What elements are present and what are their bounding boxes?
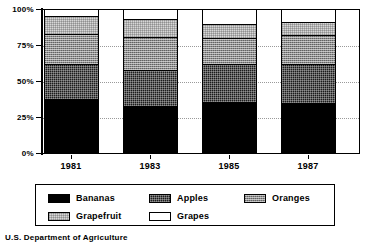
x-axis-label-1983: 1983 — [120, 161, 180, 171]
legend-label-apples: Apples — [177, 193, 208, 203]
y-axis-label-50: 50% — [0, 77, 34, 86]
x-axis-tick-1985 — [229, 155, 230, 159]
x-axis-tick-1987 — [308, 155, 309, 159]
bar-segment-1985-bananas[interactable] — [202, 102, 257, 154]
legend-swatch-oranges-icon — [244, 194, 266, 203]
legend-item-grapefruit: Grapefruit — [48, 211, 122, 221]
bar-segment-1981-apples[interactable] — [44, 64, 99, 99]
legend-item-bananas: Bananas — [48, 193, 115, 203]
bar-segment-1987-grapefruit[interactable] — [281, 22, 336, 35]
legend-item-apples: Apples — [149, 193, 208, 203]
legend-label-grapes: Grapes — [177, 211, 209, 221]
x-axis-label-1985: 1985 — [199, 161, 259, 171]
bar-segment-1981-grapefruit[interactable] — [44, 16, 99, 33]
y-axis-label-75: 75% — [0, 41, 34, 50]
bar-segment-1983-grapefruit[interactable] — [123, 19, 178, 36]
legend-swatch-grapefruit-icon — [48, 212, 70, 221]
bar-segment-1985-oranges[interactable] — [202, 38, 257, 64]
bar-segment-1987-apples[interactable] — [281, 64, 336, 103]
x-axis-label-1981: 1981 — [41, 161, 101, 171]
legend-item-oranges: Oranges — [244, 193, 310, 203]
bar-segment-1985-apples[interactable] — [202, 64, 257, 102]
bar-segment-1987-bananas[interactable] — [281, 103, 336, 154]
bar-segment-1981-grapes[interactable] — [44, 9, 99, 16]
legend-swatch-apples-icon — [149, 194, 171, 203]
legend-label-oranges: Oranges — [272, 193, 310, 203]
bar-segment-1987-oranges[interactable] — [281, 35, 336, 64]
stacked-bar-chart: 100% 75% 50% 25% 0% 1981 1983 1985 1987 … — [0, 0, 367, 244]
bar-segment-1987-grapes[interactable] — [281, 9, 336, 22]
bar-segment-1983-bananas[interactable] — [123, 106, 178, 154]
legend-label-bananas: Bananas — [76, 193, 115, 203]
bar-1981[interactable] — [44, 9, 99, 154]
y-axis-label-0: 0% — [0, 149, 34, 158]
y-axis-label-25: 25% — [0, 113, 34, 122]
y-axis-label-100: 100% — [0, 5, 34, 14]
bar-1985[interactable] — [202, 9, 257, 154]
legend-swatch-bananas-icon — [48, 194, 70, 203]
bar-segment-1983-oranges[interactable] — [123, 37, 178, 70]
source-caption: U.S. Department of Agriculture — [5, 233, 128, 242]
bar-segment-1981-oranges[interactable] — [44, 34, 99, 64]
bar-segment-1985-grapefruit[interactable] — [202, 24, 257, 39]
bar-segment-1985-grapes[interactable] — [202, 9, 257, 24]
bar-1987[interactable] — [281, 9, 336, 154]
bar-segment-1981-bananas[interactable] — [44, 99, 99, 154]
bar-segment-1983-apples[interactable] — [123, 70, 178, 106]
legend: Bananas Apples Oranges Grapefruit Grapes — [35, 184, 335, 226]
legend-swatch-grapes-icon — [149, 212, 171, 221]
bar-segment-1983-grapes[interactable] — [123, 9, 178, 19]
x-axis-label-1987: 1987 — [278, 161, 338, 171]
bar-1983[interactable] — [123, 9, 178, 154]
legend-item-grapes: Grapes — [149, 211, 209, 221]
bars-layer — [42, 9, 360, 154]
x-axis-tick-1981 — [71, 155, 72, 159]
x-axis-tick-1983 — [150, 155, 151, 159]
legend-label-grapefruit: Grapefruit — [76, 211, 122, 221]
